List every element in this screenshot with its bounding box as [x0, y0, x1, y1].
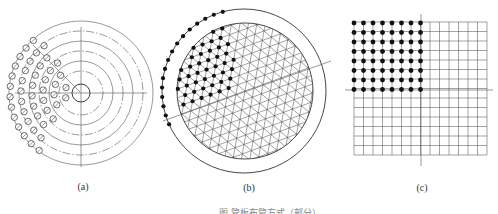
tube-hole [223, 61, 227, 65]
tube-holes-b [160, 10, 236, 127]
tube-hole [409, 49, 414, 54]
tube-hole [25, 118, 31, 124]
tube-hole [176, 87, 180, 91]
tube-hole [22, 67, 28, 73]
tube-hole [361, 87, 366, 92]
tube-hole [63, 95, 69, 101]
tube-hole [210, 83, 214, 87]
tube-hole [409, 59, 414, 64]
tube-hole [220, 26, 224, 30]
tube-hole [54, 60, 60, 66]
tube-hole [195, 71, 199, 75]
tube-hole [166, 58, 170, 62]
tube-hole [206, 58, 210, 62]
tube-hole [208, 49, 212, 53]
b-diagonal-line [163, 61, 331, 121]
tube-hole [217, 45, 221, 49]
tube-hole [371, 21, 376, 26]
tube-hole [161, 104, 165, 108]
tube-hole [31, 103, 37, 109]
tube-hole [192, 90, 196, 94]
tube-holes-a [7, 37, 69, 153]
tube-hole [221, 10, 225, 14]
tube-hole [190, 55, 194, 59]
tube-hole [175, 41, 179, 45]
tube-hole [181, 34, 185, 38]
tube-hole [200, 42, 204, 46]
shell-circle [162, 9, 326, 173]
tube-hole [215, 55, 219, 59]
tube-hole [44, 55, 50, 61]
tube-hole [194, 80, 198, 84]
tube-hole [40, 87, 46, 93]
tube-hole [160, 95, 164, 99]
tube-hole [17, 53, 23, 59]
tube-hole [418, 59, 423, 64]
tube-hole [203, 17, 207, 21]
tube-hole [228, 77, 232, 81]
tube-hole [352, 68, 357, 73]
tube-hole [227, 86, 231, 90]
tube-hole [371, 68, 376, 73]
tube-hole [409, 87, 414, 92]
tube-hole [188, 27, 192, 31]
tube-hole [52, 81, 58, 87]
panel-a-concentric-layout [7, 21, 153, 167]
tube-hole [7, 83, 13, 89]
tube-hole [38, 135, 44, 141]
tube-hole [170, 49, 174, 53]
tube-hole [160, 85, 164, 89]
tube-hole [201, 86, 205, 90]
tube-hole [361, 49, 366, 54]
tube-hole [212, 13, 216, 17]
tube-hole [218, 89, 222, 93]
tube-hole [8, 104, 14, 110]
tube-hole [371, 30, 376, 35]
tube-hole [352, 40, 357, 45]
tube-hole [11, 114, 17, 120]
tube-hole [57, 72, 63, 78]
tube-hole [199, 52, 203, 56]
tube-hole [352, 59, 357, 64]
tube-hole [380, 78, 385, 83]
tube-hole [191, 46, 195, 50]
tube-hole [390, 87, 395, 92]
tube-hole [41, 97, 47, 103]
tube-hole [23, 45, 29, 51]
tube-hole [204, 68, 208, 72]
tube-hole [390, 30, 395, 35]
tube-hole [390, 21, 395, 26]
tube-hole [12, 63, 18, 69]
tube-hole [418, 78, 423, 83]
tube-hole [226, 42, 230, 46]
tube-hole [352, 49, 357, 54]
tube-hole [380, 21, 385, 26]
tube-hole [399, 49, 404, 54]
tube-hole [18, 98, 24, 104]
tube-hole [221, 70, 225, 74]
tube-hole [361, 68, 366, 73]
tube-hole [21, 109, 27, 115]
tube-hole [361, 40, 366, 45]
tube-hole [390, 59, 395, 64]
tube-hole [41, 43, 47, 49]
tube-hole [409, 40, 414, 45]
tube-hole [399, 68, 404, 73]
tube-hole [40, 121, 46, 127]
tube-hole [47, 67, 53, 73]
tube-hole [418, 40, 423, 45]
tube-hole [418, 30, 423, 35]
panel-label-a: (a) [63, 181, 103, 192]
panel-c-square-layout [345, 14, 493, 166]
tube-hole [188, 65, 192, 69]
tube-hole [51, 92, 57, 98]
tube-hole [177, 77, 181, 81]
tube-hole [361, 59, 366, 64]
tube-hole [183, 93, 187, 97]
tube-hole [208, 93, 212, 97]
tube-hole [409, 30, 414, 35]
tube-hole [380, 40, 385, 45]
tube-hole [409, 68, 414, 73]
tube-hole [409, 78, 414, 83]
tube-hole [21, 132, 27, 138]
